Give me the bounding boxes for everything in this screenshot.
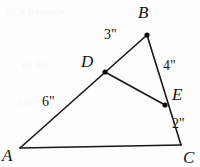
- edge-AC: [20, 145, 181, 148]
- triangle-diagram-canvas: [0, 0, 200, 167]
- vertex-dot-B: [144, 32, 149, 37]
- measure-label-EC: 2": [172, 117, 185, 131]
- geometry-figure: of a triangle to the and A B C D E 6" 3"…: [0, 0, 200, 167]
- measure-label-BE: 4": [163, 59, 176, 73]
- edge-group: [20, 35, 181, 148]
- vertex-label-B: B: [138, 4, 148, 21]
- vertex-label-D: D: [81, 53, 93, 70]
- vertex-dot-D: [102, 69, 107, 74]
- measure-label-AD: 6": [42, 95, 55, 109]
- edge-DE: [105, 72, 165, 105]
- vertex-dot-E: [162, 102, 167, 107]
- vertex-label-E: E: [172, 86, 182, 103]
- vertex-label-C: C: [183, 149, 194, 166]
- vertex-label-A: A: [2, 147, 12, 164]
- measure-label-DB: 3": [104, 28, 117, 42]
